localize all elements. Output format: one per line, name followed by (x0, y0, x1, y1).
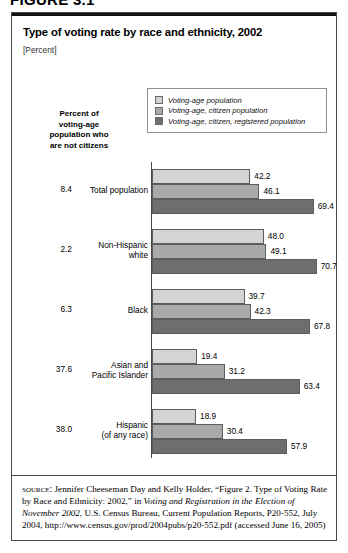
bar-row: 69.4 (152, 199, 338, 214)
percent-not-citizens-value: 38.0 (20, 424, 72, 434)
left-column-header-line: Percent of (24, 109, 134, 120)
bar-row: 19.4 (152, 349, 338, 364)
percent-not-citizens-value: 6.3 (20, 304, 72, 314)
bar-value-label: 18.9 (200, 411, 216, 421)
page-title: Type of voting rate by race and ethnicit… (23, 26, 323, 38)
figure-number: FIGURE 3.1 (10, 0, 95, 8)
bar-value-label: 69.4 (318, 201, 334, 211)
bar-row: 31.2 (152, 364, 338, 379)
category-label: Black (74, 305, 148, 315)
percent-not-citizens-value: 2.2 (20, 244, 72, 254)
chart-units-subtitle: [Percent] (23, 45, 57, 55)
bar-value-label: 19.4 (201, 351, 217, 361)
legend-swatch-icon (155, 117, 163, 125)
bar-group: 6.3Black39.742.367.8 (12, 280, 338, 340)
category-label-line: Pacific Islander (74, 370, 148, 380)
bar-value-label: 42.2 (254, 171, 270, 181)
category-label-line: white (74, 250, 148, 260)
bar (152, 184, 259, 199)
bar (152, 244, 266, 259)
bar-group: 38.0Hispanic(of any race)18.930.457.9 (12, 400, 338, 460)
bar-row: 18.9 (152, 409, 338, 424)
left-column-header-line: population who (24, 130, 134, 141)
bar-value-label: 31.2 (229, 366, 245, 376)
category-label: Asian andPacific Islander (74, 360, 148, 380)
bar-value-label: 49.1 (270, 246, 286, 256)
bar-value-label: 70.7 (321, 261, 337, 271)
bar-value-label: 42.3 (255, 306, 271, 316)
legend-item-label: Voting-age, citizen, registered populati… (168, 117, 305, 126)
percent-not-citizens-value: 8.4 (20, 184, 72, 194)
bar-row: 46.1 (152, 184, 338, 199)
bar (152, 199, 314, 214)
category-label-line: Hispanic (74, 420, 148, 430)
bar-row: 70.7 (152, 259, 338, 274)
source-note: source: Jennifer Cheeseman Day and Kelly… (22, 483, 328, 531)
left-column-header-line: are not citizens (24, 141, 134, 152)
bar-row: 30.4 (152, 424, 338, 439)
bar-value-label: 48.0 (268, 231, 284, 241)
bar-row: 49.1 (152, 244, 338, 259)
category-label-line: (of any race) (74, 430, 148, 440)
bar-row: 57.9 (152, 439, 338, 454)
bar (152, 409, 196, 424)
category-label-line: Asian and (74, 360, 148, 370)
bar-value-label: 39.7 (249, 291, 265, 301)
bar-row: 42.2 (152, 169, 338, 184)
bar-row: 48.0 (152, 229, 338, 244)
bar (152, 304, 251, 319)
bar (152, 169, 250, 184)
legend-item: Voting-age, citizen population (155, 106, 320, 115)
category-label: Total population (74, 185, 148, 195)
category-label: Hispanic(of any race) (74, 420, 148, 440)
legend-item: Voting-age population (155, 96, 320, 105)
bar-group: 37.6Asian andPacific Islander19.431.263.… (12, 340, 338, 400)
left-column-header-line: voting-age (24, 120, 134, 131)
chart-legend: Voting-age populationVoting-age, citizen… (147, 88, 327, 133)
legend-item: Voting-age, citizen, registered populati… (155, 117, 320, 126)
bar-row: 42.3 (152, 304, 338, 319)
bar (152, 439, 287, 454)
figure-page: FIGURE 3.1 Type of voting rate by race a… (0, 0, 348, 553)
legend-swatch-icon (155, 107, 163, 115)
bar-value-label: 46.1 (263, 186, 279, 196)
bar (152, 259, 317, 274)
bar-row: 67.8 (152, 319, 338, 334)
bar (152, 349, 197, 364)
source-divider (12, 475, 336, 476)
category-label: Non-Hispanicwhite (74, 240, 148, 260)
bar (152, 364, 225, 379)
bar (152, 424, 223, 439)
legend-item-label: Voting-age, citizen population (168, 106, 267, 115)
bar (152, 289, 245, 304)
legend-item-label: Voting-age population (168, 96, 242, 105)
left-column-header: Percent ofvoting-agepopulation whoare no… (24, 109, 134, 151)
bar-group: 2.2Non-Hispanicwhite48.049.170.7 (12, 220, 338, 280)
bar-value-label: 67.8 (314, 321, 330, 331)
figure-box: Type of voting rate by race and ethnicit… (11, 12, 337, 541)
bar-row: 39.7 (152, 289, 338, 304)
bar-value-label: 63.4 (304, 381, 320, 391)
bar-value-label: 30.4 (227, 426, 243, 436)
bar-row: 63.4 (152, 379, 338, 394)
bar (152, 379, 300, 394)
bar-group: 8.4Total population42.246.169.4 (12, 160, 338, 220)
percent-not-citizens-value: 37.6 (20, 364, 72, 374)
plot-area: 8.4Total population42.246.169.42.2Non-Hi… (12, 160, 338, 460)
source-label: source: (22, 483, 52, 494)
bar-value-label: 57.9 (291, 441, 307, 451)
bar (152, 319, 310, 334)
category-label-line: Total population (74, 185, 148, 195)
category-label-line: Black (74, 305, 148, 315)
bar (152, 229, 264, 244)
legend-swatch-icon (155, 96, 163, 104)
category-label-line: Non-Hispanic (74, 240, 148, 250)
top-rule (12, 13, 336, 16)
